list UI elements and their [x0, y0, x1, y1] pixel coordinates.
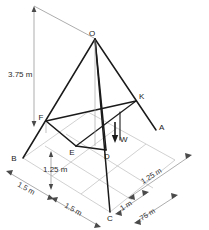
projection-lines	[46, 40, 95, 146]
force-arrow-W-head	[112, 135, 118, 143]
pyramid-diagram: O K A F E D B C W 3.75 m 1.25 m 1.5 m 1.…	[0, 0, 209, 230]
dim-label-base-left: 1.5 m	[16, 180, 37, 197]
base-right-dim-line	[130, 156, 190, 197]
edge-O-A	[95, 39, 156, 130]
vertex-label-D: D	[104, 152, 110, 161]
front-right-1m-arrow-2	[142, 190, 149, 196]
vertex-label-E: E	[69, 148, 74, 157]
dim-label-base-front: 1.5 m	[63, 201, 84, 218]
edge-F-E	[46, 121, 76, 146]
dimension-lines	[6, 6, 192, 228]
dim-label-front-right-75m: .75 m	[136, 206, 156, 223]
vertex-label-O: O	[89, 29, 95, 38]
vertex-label-C: C	[107, 214, 113, 223]
pyramid-edges	[23, 39, 156, 212]
dim-label-front-right-1m: 1 m	[118, 199, 133, 213]
figure-container: O K A F E D B C W 3.75 m 1.25 m 1.5 m 1.…	[0, 0, 209, 230]
vertex-label-A: A	[159, 123, 165, 132]
leader-to-apex	[34, 6, 94, 38]
vertex-label-F: F	[39, 113, 44, 122]
dim-label-depth-left: 1.25 m	[43, 165, 68, 174]
height-dim-arrow-bottom	[32, 121, 37, 127]
force-label-W: W	[120, 135, 128, 144]
grid-line-d	[81, 144, 146, 194]
vertex-label-B: B	[11, 154, 16, 163]
depth-dim-arrow-bottom	[49, 184, 53, 190]
force-arrow-W[interactable]	[112, 122, 118, 143]
vertex-label-K: K	[139, 92, 145, 101]
front-right-75m-arrow-2	[171, 193, 178, 199]
depth-dim-arrow-top	[49, 151, 53, 157]
base-right-dim-arrow-2	[185, 153, 192, 159]
dim-label-height: 3.75 m	[8, 70, 33, 79]
